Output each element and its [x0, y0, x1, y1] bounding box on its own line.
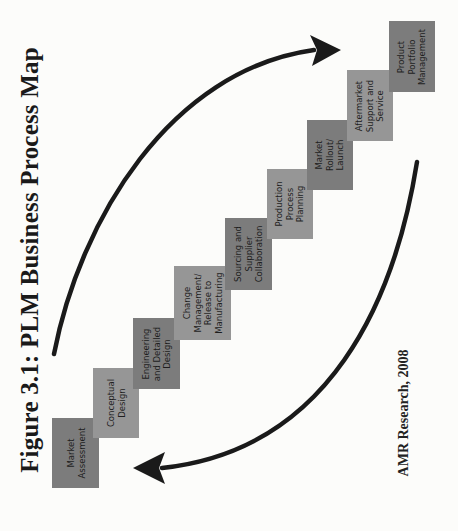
- step-label: Sourcing and Supplier Collaboration: [233, 226, 265, 283]
- step-market-assessment: Market Assessment: [52, 418, 99, 488]
- step-label: Market Assessment: [65, 428, 86, 479]
- step-label: Market Rollout/ Launch: [314, 139, 346, 171]
- step-change-management: Change Management/ Release to Manufactur…: [174, 266, 231, 340]
- step-label: Change Management/ Release to Manufactur…: [182, 272, 224, 334]
- step-label: Conceptual Design: [106, 379, 127, 427]
- step-product-portfolio-management: Product Portfolio Management: [389, 21, 435, 92]
- source-attribution: AMR Research, 2008: [396, 350, 412, 477]
- step-engineering-detailed-design: Engineering and Detailed Design: [133, 318, 180, 389]
- step-label: Production Process Planning: [274, 181, 306, 226]
- figure-canvas: Figure 3.1: PLM Business Process Map Mar…: [0, 0, 458, 531]
- step-aftermarket-support-service: Aftermarket Support and Service: [347, 70, 393, 141]
- step-label: Engineering and Detailed Design: [141, 326, 173, 380]
- step-label: Product Portfolio Management: [396, 29, 428, 85]
- step-sourcing-supplier-collaboration: Sourcing and Supplier Collaboration: [225, 218, 272, 290]
- step-label: Aftermarket Support and Service: [354, 79, 386, 131]
